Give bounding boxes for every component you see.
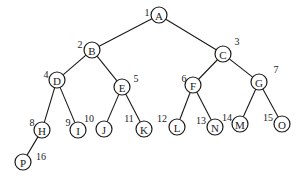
node-index-label: 1	[145, 7, 150, 18]
edge-g-m	[243, 89, 255, 116]
edge-b-e	[97, 56, 117, 81]
node-index-label: 4	[44, 69, 49, 80]
node-label: I	[76, 125, 80, 137]
node-label: F	[190, 80, 196, 92]
tree-node-b: B2	[78, 39, 101, 59]
node-index-label: 7	[274, 64, 279, 75]
node-index-label: 10	[84, 113, 94, 124]
node-index-label: 2	[78, 39, 83, 50]
node-index-label: 9	[66, 117, 71, 128]
node-index-label: 8	[30, 117, 35, 128]
binary-tree-diagram: A1B2C3D4E5F6G7H8I9J10K11L12N13M14O15P16	[0, 0, 296, 181]
node-index-label: 15	[263, 112, 273, 123]
node-label: D	[53, 75, 61, 87]
tree-node-c: C3	[215, 36, 240, 63]
node-label: H	[38, 125, 46, 137]
node-index-label: 16	[36, 151, 46, 162]
node-index-label: 5	[134, 73, 139, 84]
node-label: A	[155, 10, 163, 22]
edge-d-h	[44, 88, 54, 123]
edge-f-l	[180, 92, 190, 119]
node-label: N	[211, 122, 219, 134]
node-index-label: 3	[235, 36, 240, 47]
tree-nodes: A1B2C3D4E5F6G7H8I9J10K11L12N13M14O15P16	[15, 7, 290, 171]
tree-node-k: K11	[124, 113, 152, 138]
node-label: B	[88, 45, 95, 57]
edge-a-c	[166, 19, 216, 50]
tree-node-d: D4	[44, 69, 66, 89]
tree-node-g: G7	[251, 64, 279, 91]
node-label: K	[140, 124, 148, 136]
tree-node-j: J10	[84, 113, 112, 138]
edge-c-g	[229, 59, 252, 77]
edge-a-b	[99, 19, 152, 47]
tree-edges	[27, 19, 278, 155]
edge-e-j	[107, 94, 119, 121]
node-index-label: 13	[196, 115, 206, 126]
node-label: O	[278, 119, 286, 131]
tree-node-i: I9	[66, 117, 87, 139]
node-label: G	[255, 77, 263, 89]
edge-b-d	[63, 55, 86, 75]
node-index-label: 6	[182, 73, 187, 84]
node-label: E	[119, 82, 126, 94]
node-label: L	[174, 122, 181, 134]
node-index-label: 14	[222, 112, 232, 123]
node-label: J	[102, 124, 107, 136]
tree-node-h: H8	[30, 117, 51, 139]
edge-c-f	[199, 60, 218, 80]
node-label: C	[219, 49, 226, 61]
tree-node-f: F6	[182, 73, 202, 94]
node-label: M	[235, 119, 245, 131]
tree-node-p: P16	[15, 151, 46, 171]
node-index-label: 12	[157, 113, 167, 124]
tree-node-e: E5	[114, 73, 139, 96]
node-label: P	[20, 157, 26, 169]
node-index-label: 11	[124, 113, 134, 124]
